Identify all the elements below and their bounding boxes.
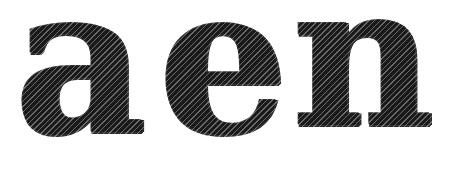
captcha-image: a e n bbox=[0, 0, 476, 171]
captcha-glyph: a bbox=[14, 0, 147, 163]
captcha-glyph: e bbox=[158, 0, 288, 163]
captcha-glyph: n bbox=[292, 0, 435, 154]
